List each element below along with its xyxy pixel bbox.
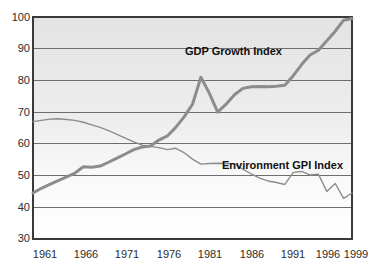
x-tick-1991: 1991 (281, 249, 305, 260)
x-axis-ticks: 1961 1966 1971 1976 1981 1986 1991 1996 … (0, 0, 369, 280)
x-tick-1961: 1961 (33, 249, 57, 260)
series-label-gdp-growth-index: GDP Growth Index (185, 45, 282, 57)
x-tick-1986: 1986 (240, 249, 264, 260)
x-tick-1971: 1971 (115, 249, 139, 260)
chart-container: 100 90 80 70 60 50 40 30 1961 1966 1971 … (0, 0, 369, 280)
x-tick-1976: 1976 (157, 249, 181, 260)
series-label-environment-gpi-index: Environment GPI Index (222, 159, 343, 171)
x-tick-1996: 1996 (316, 249, 340, 260)
x-tick-1999: 1999 (344, 249, 368, 260)
x-tick-1966: 1966 (74, 249, 98, 260)
x-tick-1981: 1981 (198, 249, 222, 260)
